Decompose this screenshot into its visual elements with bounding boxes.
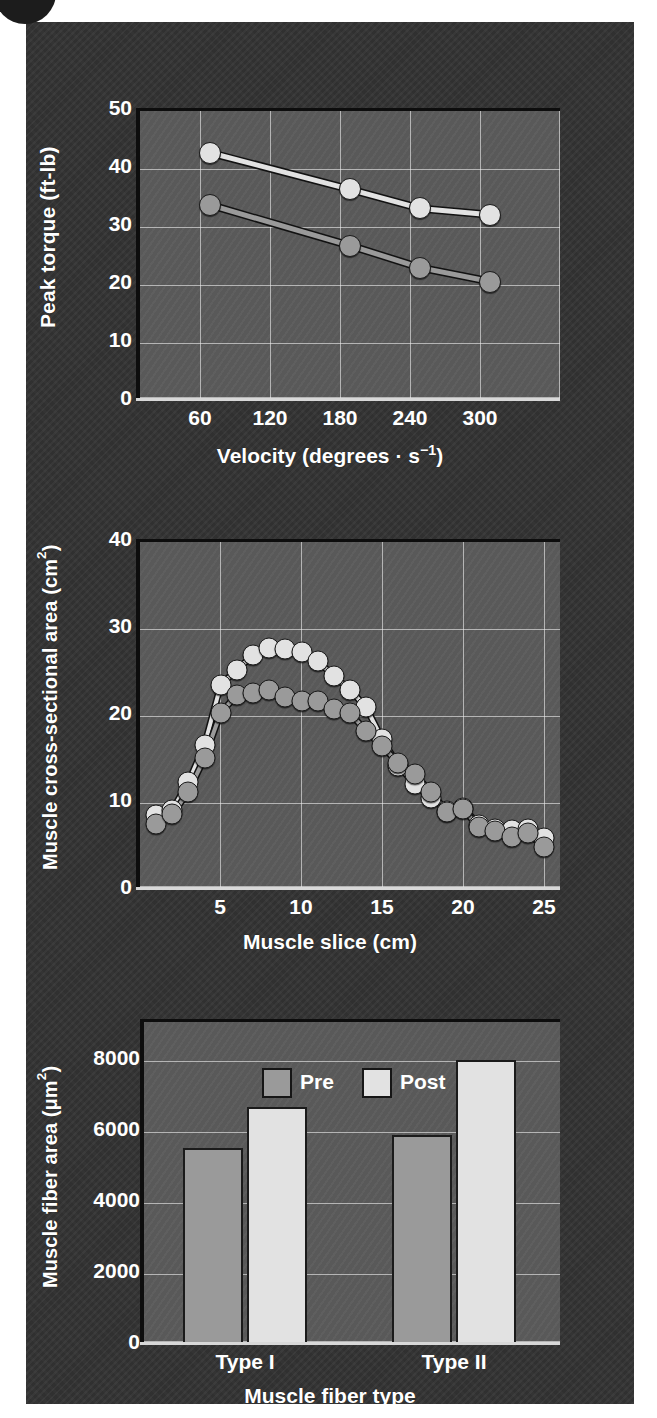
data-point-marker <box>479 271 501 293</box>
chart3-y-axis-title-text: Muscle fiber area (μm <box>39 1080 61 1288</box>
bar-post-1 <box>247 1107 307 1342</box>
data-point-marker <box>409 257 431 279</box>
gridline <box>140 169 560 170</box>
legend-label-pre: Pre <box>300 1070 334 1094</box>
legend-swatch-pre <box>262 1068 292 1098</box>
data-point-marker <box>479 204 501 226</box>
gridline <box>559 111 560 398</box>
figure-root: Peak torque (ft-lb) 50 40 30 20 10 0 <box>0 0 657 1418</box>
chart1-xtick: 240 <box>392 406 427 430</box>
gridline <box>270 111 271 398</box>
chart1-xtick: 300 <box>462 406 497 430</box>
gridline <box>301 542 302 887</box>
gridline <box>463 542 464 887</box>
chart3-y-axis-title: Muscle fiber area (μm2) <box>34 1022 62 1332</box>
chart3-x-axis-title: Muscle fiber type <box>26 1384 634 1404</box>
chart2-y-axis-title-close: ) <box>39 544 61 551</box>
chart3-ytick: 4000 <box>78 1188 140 1212</box>
corner-circle-badge <box>0 0 56 24</box>
gridline <box>140 629 560 630</box>
chart1-x-axis-title-unit: s <box>408 444 420 467</box>
chart1-xtick: 120 <box>252 406 287 430</box>
data-point-marker <box>340 679 361 700</box>
chart3-x-axis-line <box>140 1342 560 1345</box>
chart1-x-axis-title-exponent: −1 <box>420 442 436 458</box>
chart1-plot-area <box>140 108 560 398</box>
chart3-ytick: 8000 <box>78 1046 140 1070</box>
chart2-plot-area <box>140 539 560 887</box>
data-point-marker <box>340 703 361 724</box>
chart2-y-axis-title-text: Muscle cross-sectional area (cm <box>39 559 61 870</box>
chart2-ytick: 30 <box>88 614 132 638</box>
chart1-ytick: 0 <box>96 386 132 410</box>
data-point-marker <box>194 747 215 768</box>
chart1-x-axis-line <box>136 398 560 401</box>
chart3-ytick: 6000 <box>78 1117 140 1141</box>
chart1-x-axis-title: Velocity (degrees · s−1) <box>26 442 634 468</box>
chart2-xtick: 10 <box>289 895 312 919</box>
data-point-marker <box>339 235 361 257</box>
chart3-xtick: Type I <box>215 1350 274 1374</box>
data-point-marker <box>226 659 247 680</box>
chart2-y-axis-title: Muscle cross-sectional area (cm2) <box>34 502 62 912</box>
chart-muscle-csa: Muscle cross-sectional area (cm2) 40 30 … <box>26 482 634 962</box>
figure-panel: Peak torque (ft-lb) 50 40 30 20 10 0 <box>26 22 634 1404</box>
chart2-y-axis-title-exponent: 2 <box>34 551 49 559</box>
chart1-ytick: 30 <box>96 212 132 236</box>
chart2-x-axis-line <box>136 887 560 890</box>
legend-swatch-post <box>362 1068 392 1098</box>
data-point-marker <box>420 781 441 802</box>
chart3-ytick: 0 <box>78 1330 140 1354</box>
chart3-xtick: Type II <box>422 1350 487 1374</box>
chart2-ytick: 40 <box>88 527 132 551</box>
chart3-ytick: 2000 <box>78 1259 140 1283</box>
chart3-plot-area: Pre Post <box>144 1019 560 1342</box>
chart2-x-axis-title: Muscle slice (cm) <box>26 930 634 954</box>
chart2-xtick: 20 <box>451 895 474 919</box>
data-point-marker <box>199 142 221 164</box>
chart1-x-axis-title-close: ) <box>436 444 443 467</box>
data-point-marker <box>178 781 199 802</box>
gridline <box>340 111 341 398</box>
chart1-ytick: 50 <box>96 96 132 120</box>
gridline <box>140 803 560 804</box>
data-point-marker <box>533 836 554 857</box>
chart1-ytick: 20 <box>96 270 132 294</box>
chart2-xtick: 5 <box>214 895 226 919</box>
data-point-marker <box>356 720 377 741</box>
data-point-marker <box>404 764 425 785</box>
gridline <box>140 227 560 228</box>
chart2-ytick: 20 <box>88 701 132 725</box>
gridline <box>382 542 383 887</box>
chart1-xtick: 180 <box>322 406 357 430</box>
gridline <box>140 343 560 344</box>
gridline <box>480 111 481 398</box>
chart2-ytick: 10 <box>88 788 132 812</box>
bar-pre-2 <box>392 1135 452 1342</box>
chart2-xtick: 15 <box>370 895 393 919</box>
data-point-marker <box>409 197 431 219</box>
chart1-ytick: 40 <box>96 154 132 178</box>
data-point-marker <box>453 799 474 820</box>
chart2-ytick: 0 <box>88 875 132 899</box>
chart-muscle-fiber-area: Muscle fiber area (μm2) 8000 6000 4000 2… <box>26 962 634 1404</box>
chart-peak-torque: Peak torque (ft-lb) 50 40 30 20 10 0 <box>26 22 634 492</box>
data-point-marker <box>199 194 221 216</box>
bar-pre-1 <box>183 1148 243 1342</box>
data-point-marker <box>162 804 183 825</box>
chart1-x-axis-title-text: Velocity (degrees <box>217 444 390 467</box>
legend-label-post: Post <box>400 1070 446 1094</box>
chart1-y-axis-title: Peak torque (ft-lb) <box>36 102 60 372</box>
chart3-y-axis-title-close: ) <box>39 1066 61 1073</box>
chart2-xtick: 25 <box>532 895 555 919</box>
chart1-xtick: 60 <box>188 406 211 430</box>
chart3-y-axis-title-exponent: 2 <box>34 1073 49 1081</box>
bar-post-2 <box>456 1060 516 1342</box>
data-point-marker <box>339 178 361 200</box>
data-point-marker <box>372 736 393 757</box>
chart1-ytick: 10 <box>96 328 132 352</box>
data-point-marker <box>210 702 231 723</box>
gridline <box>410 111 411 398</box>
